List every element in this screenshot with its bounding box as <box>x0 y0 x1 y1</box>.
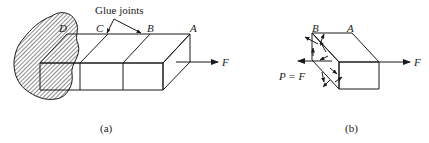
figure-b: P = F B A F (b) <box>278 22 421 135</box>
glue-joint-bar-diagram: Glue joints D C B A F (a) P = F <box>0 0 429 143</box>
force-label-f: F <box>221 56 229 68</box>
reaction-label-p: P = F <box>278 70 305 82</box>
label-b: B <box>312 22 319 34</box>
label-b: B <box>147 22 154 34</box>
force-label-f: F <box>413 56 421 68</box>
label-a: A <box>189 22 197 34</box>
caption-b: (b) <box>345 122 358 135</box>
diagram-canvas: Glue joints D C B A F (a) P = F <box>0 0 429 143</box>
glue-joints-label: Glue joints <box>95 4 144 16</box>
label-c: C <box>96 22 104 34</box>
joint-b-top <box>123 34 150 63</box>
figure-a: Glue joints D C B A F (a) <box>14 4 229 135</box>
label-a: A <box>346 22 354 34</box>
caption-a: (a) <box>100 122 113 135</box>
joint-c-top <box>80 34 108 63</box>
glue-leader-b <box>114 19 141 33</box>
label-d: D <box>58 22 67 34</box>
glue-leader-c <box>107 19 114 33</box>
